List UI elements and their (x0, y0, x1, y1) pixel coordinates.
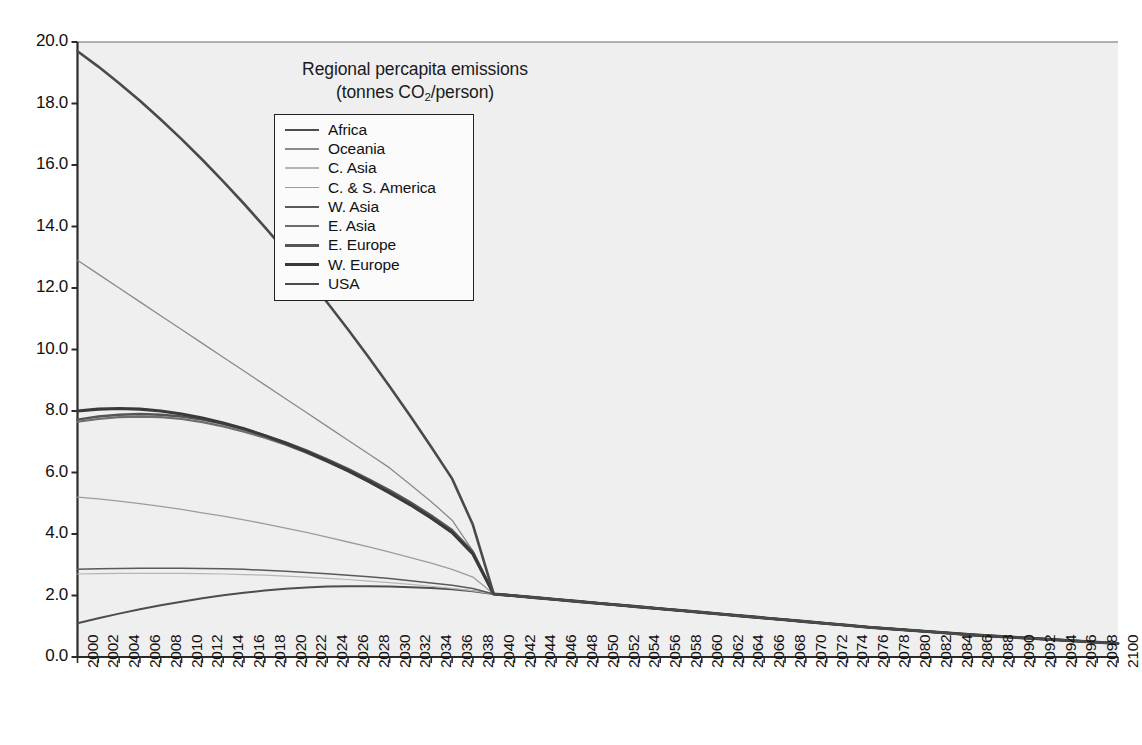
x-tick-label: 2036 (458, 635, 476, 668)
legend-swatch-icon (285, 129, 319, 131)
x-tick-label: 2008 (167, 635, 185, 668)
chart-title-units-sub: 2 (424, 91, 430, 103)
x-tick-label: 2042 (521, 635, 539, 668)
legend-item-label: USA (328, 275, 360, 293)
legend-swatch-icon (285, 148, 319, 150)
x-tick-label: 2058 (687, 635, 705, 668)
legend-item-label: E. Europe (328, 236, 396, 254)
legend-item-e-asia[interactable]: E. Asia (281, 216, 467, 235)
x-tick-label: 2026 (354, 635, 372, 668)
legend-item-e-europe[interactable]: E. Europe (281, 236, 467, 255)
y-tick-label: 20.0 (8, 31, 68, 51)
x-tick-label: 2014 (229, 635, 247, 668)
legend-item-label: C. Asia (328, 159, 376, 177)
legend-item-w-europe[interactable]: W. Europe (281, 255, 467, 274)
x-tick-label: 2092 (1041, 635, 1059, 668)
x-tick-label: 2086 (978, 635, 996, 668)
legend-item-label: W. Europe (328, 256, 399, 274)
x-tick-label: 2052 (625, 635, 643, 668)
x-tick-label: 2082 (937, 635, 955, 668)
x-tick-label: 2074 (853, 635, 871, 668)
legend-swatch-icon (285, 167, 319, 169)
x-tick-label: 2050 (604, 635, 622, 668)
x-tick-label: 2012 (208, 635, 226, 668)
x-tick-label: 2080 (916, 635, 934, 668)
x-tick-label: 2048 (583, 635, 601, 668)
x-tick-label: 2034 (437, 635, 455, 668)
legend-swatch-icon (285, 283, 319, 286)
x-tick-label: 2066 (770, 635, 788, 668)
y-tick-label: 10.0 (8, 339, 68, 359)
chart-title-line2: (tonnes CO2/person) (250, 81, 580, 104)
x-tick-label: 2096 (1082, 635, 1100, 668)
x-tick-label: 2016 (250, 635, 268, 668)
x-tick-label: 2090 (1020, 635, 1038, 668)
x-tick-label: 2038 (479, 635, 497, 668)
legend-item-c-asia[interactable]: C. Asia (281, 159, 467, 178)
x-tick-label: 2006 (146, 635, 164, 668)
legend-swatch-icon (285, 187, 319, 189)
legend-item-label: W. Asia (328, 198, 379, 216)
y-tick-label: 8.0 (8, 400, 68, 420)
legend-item-label: Africa (328, 121, 367, 139)
x-tick-label: 2010 (188, 635, 206, 668)
y-tick-label: 4.0 (8, 523, 68, 543)
chart-title-line1: Regional percapita emissions (302, 59, 528, 79)
y-tick-label: 16.0 (8, 154, 68, 174)
x-tick-label: 2030 (396, 635, 414, 668)
y-tick-label: 2.0 (8, 585, 68, 605)
x-tick-label: 2070 (812, 635, 830, 668)
chart-title-units-post: /person) (431, 82, 494, 102)
x-tick-label: 2046 (562, 635, 580, 668)
chart-title-units-pre: (tonnes CO (336, 82, 424, 102)
x-tick-label: 2076 (874, 635, 892, 668)
x-tick-label: 2060 (708, 635, 726, 668)
legend-swatch-icon (285, 206, 319, 208)
chart-title-block: Regional percapita emissions (tonnes CO2… (250, 58, 580, 104)
y-tick-label: 14.0 (8, 216, 68, 236)
x-tick-label: 2094 (1062, 635, 1080, 668)
x-tick-label: 2000 (84, 635, 102, 668)
x-tick-label: 2024 (333, 635, 351, 668)
x-tick-label: 2084 (958, 635, 976, 668)
x-tick-label: 2018 (271, 635, 289, 668)
legend-item-label: E. Asia (328, 217, 376, 235)
x-tick-label: 2064 (749, 635, 767, 668)
x-tick-label: 2032 (416, 635, 434, 668)
legend-item-label: C. & S. America (328, 179, 436, 197)
x-tick-label: 2022 (312, 635, 330, 668)
x-tick-label: 2056 (666, 635, 684, 668)
x-tick-label: 2054 (645, 635, 663, 668)
legend-swatch-icon (285, 244, 319, 246)
legend-swatch-icon (285, 225, 319, 227)
legend-item-w-asia[interactable]: W. Asia (281, 197, 467, 216)
x-tick-label: 2020 (292, 635, 310, 668)
x-tick-label: 2004 (125, 635, 143, 668)
plot-background (78, 42, 1119, 657)
x-tick-label: 2028 (375, 635, 393, 668)
legend-item-c-s-america[interactable]: C. & S. America (281, 178, 467, 197)
x-tick-label: 2072 (833, 635, 851, 668)
x-tick-label: 2078 (895, 635, 913, 668)
legend-item-africa[interactable]: Africa (281, 120, 467, 139)
legend-item-oceania[interactable]: Oceania (281, 139, 467, 158)
legend-item-label: Oceania (328, 140, 385, 158)
x-tick-label: 2062 (729, 635, 747, 668)
legend-swatch-icon (285, 263, 319, 266)
x-tick-label: 2044 (541, 635, 559, 668)
x-tick-label: 2068 (791, 635, 809, 668)
x-tick-label: 2098 (1103, 635, 1121, 668)
y-tick-label: 12.0 (8, 277, 68, 297)
legend-item-usa[interactable]: USA (281, 274, 467, 293)
x-tick-label: 2002 (104, 635, 122, 668)
chart-legend: AfricaOceaniaC. AsiaC. & S. AmericaW. As… (274, 114, 474, 301)
x-tick-label: 2040 (500, 635, 518, 668)
y-tick-label: 6.0 (8, 462, 68, 482)
y-tick-label: 18.0 (8, 93, 68, 113)
x-tick-label: 2100 (1124, 635, 1142, 668)
y-tick-label: 0.0 (8, 646, 68, 666)
x-tick-label: 2088 (999, 635, 1017, 668)
